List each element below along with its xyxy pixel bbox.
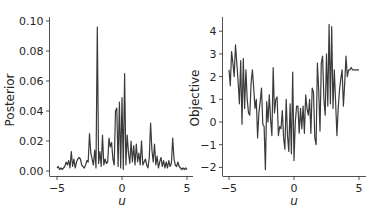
objective-line: [229, 24, 359, 169]
objective-y-tick-label: 3: [210, 48, 217, 61]
posterior-axes: 0.000.020.040.060.080.10 −505 Posterior …: [3, 15, 193, 208]
objective-y-tick-label: −2: [200, 161, 216, 174]
posterior-y-tick-label: 0.06: [19, 75, 44, 88]
posterior-x-tick-label: 5: [184, 182, 191, 195]
posterior-x-ticks: −505: [49, 177, 191, 195]
posterior-y-ticks: 0.000.020.040.060.080.10: [19, 15, 50, 178]
objective-y-tick-label: 4: [210, 25, 217, 38]
objective-axes: −2−101234 −505 Objective u: [188, 17, 366, 208]
objective-x-label: u: [290, 194, 298, 208]
posterior-y-tick-label: 0.02: [19, 135, 44, 148]
posterior-y-tick-label: 0.00: [19, 165, 44, 178]
objective-x-tick-label: 5: [356, 182, 363, 195]
objective-y-label: Objective: [188, 70, 202, 127]
objective-y-tick-label: −1: [200, 139, 216, 152]
posterior-line: [57, 27, 187, 170]
posterior-x-label: u: [118, 194, 126, 208]
objective-y-tick-label: 2: [210, 71, 217, 84]
posterior-y-label: Posterior: [3, 73, 17, 126]
objective-y-tick-label: 1: [210, 93, 217, 106]
figure: 0.000.020.040.060.080.10 −505 Posterior …: [0, 0, 373, 212]
objective-y-ticks: −2−101234: [200, 25, 222, 174]
objective-y-tick-label: 0: [210, 116, 217, 129]
posterior-y-tick-label: 0.04: [19, 105, 44, 118]
objective-x-ticks: −505: [221, 177, 363, 195]
objective-x-tick-label: 0: [291, 182, 298, 195]
posterior-x-tick-label: −5: [49, 182, 65, 195]
posterior-y-tick-label: 0.10: [19, 15, 44, 28]
posterior-x-tick-label: 0: [119, 182, 126, 195]
objective-x-tick-label: −5: [221, 182, 237, 195]
posterior-y-tick-label: 0.08: [19, 45, 44, 58]
